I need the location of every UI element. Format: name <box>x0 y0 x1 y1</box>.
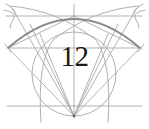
top-right-loop-arc <box>135 10 145 28</box>
right-inner-line <box>74 34 108 116</box>
apex-point <box>73 115 76 118</box>
top-left-loop-arc <box>4 10 14 28</box>
geometric-construction-diagram <box>0 0 149 129</box>
left-inner-line <box>40 34 74 116</box>
